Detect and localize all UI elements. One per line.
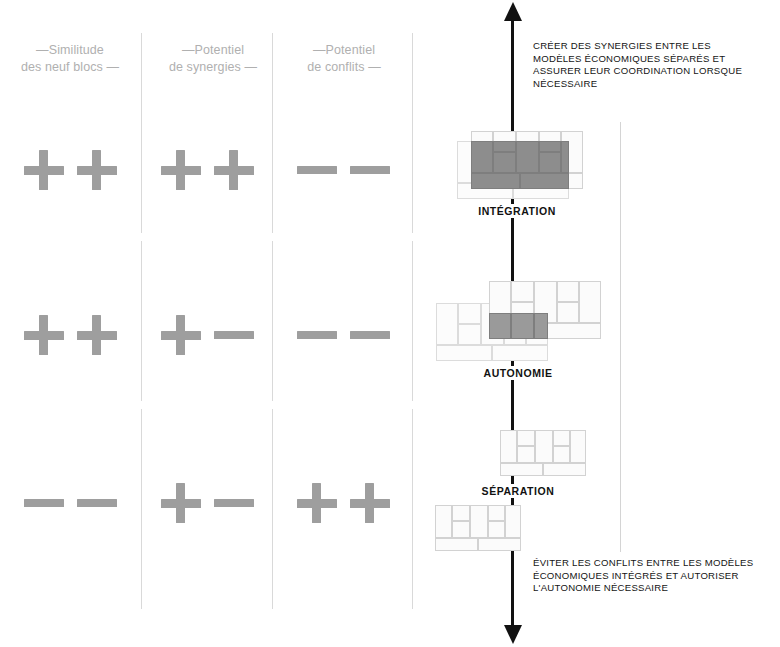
bmc-block-key-partners: [435, 505, 452, 538]
column-divider-3-seg-1: [412, 33, 413, 233]
overlap-cell: [493, 141, 516, 152]
minus-icon: [77, 483, 117, 523]
overlap-cell: [511, 313, 534, 339]
bmc-block-value-prop: [535, 430, 553, 463]
overlap-cell: [516, 141, 539, 173]
annotation-top: CRÉER DES SYNERGIES ENTRE LES MODÈLES ÉC…: [533, 40, 771, 90]
bmc-block-key-activities: [517, 430, 535, 446]
plus-icon: [161, 150, 201, 190]
overlap-cell: [471, 141, 493, 173]
column-header-conflits: —Potentiel de conflits —: [274, 42, 414, 76]
plus-icon: [297, 483, 337, 523]
bmc-block-customers: [505, 505, 521, 538]
minus-icon: [297, 150, 337, 190]
bmc-block-channels: [553, 446, 570, 463]
column-divider-1-seg-2: [141, 241, 142, 401]
rating-autonomie-conflits: [274, 310, 412, 360]
plus-icon: [24, 315, 64, 355]
column-header-similitude: —Similitude des neuf blocs —: [0, 42, 140, 76]
axis-arrowhead-up: [504, 2, 522, 21]
bmc-block-key-activities: [452, 505, 470, 521]
column-divider-2-seg-3: [272, 409, 273, 609]
rating-separation-similitude: [0, 478, 140, 528]
rating-integration-synergies: [143, 145, 271, 195]
plus-icon: [161, 315, 201, 355]
column-divider-2-seg-1: [272, 33, 273, 233]
rating-integration-conflits: [274, 145, 412, 195]
overlap-grid-autonomie: [489, 313, 548, 339]
rating-autonomie-similitude: [0, 310, 140, 360]
plus-icon: [77, 150, 117, 190]
overlap-cell: [489, 313, 511, 339]
column-divider-3-seg-2: [412, 241, 413, 401]
bmc-block-relationships: [557, 281, 579, 302]
plus-icon: [161, 483, 201, 523]
column-divider-1-seg-3: [141, 409, 142, 609]
bmc-block-cost-structure: [500, 463, 543, 476]
annotation-bottom: ÉVITER LES CONFLITS ENTRE LES MODÈLES ÉC…: [533, 557, 773, 595]
bmc-block-key-partners: [500, 430, 517, 463]
bmc-block-channels: [557, 302, 579, 323]
stage-label-integration: INTÉGRATION: [451, 204, 583, 218]
overlap-cell: [539, 141, 561, 152]
overlap-cell: [561, 141, 569, 173]
bmc-block-revenue-streams: [492, 345, 548, 361]
overlap-grid-integration: [471, 141, 569, 189]
stage-label-autonomie: AUTONOMIE: [452, 366, 584, 380]
minus-icon: [350, 150, 390, 190]
column-divider-2-seg-2: [272, 241, 273, 401]
bmc-block-key-activities: [511, 281, 534, 302]
bmc-block-cost-structure: [436, 345, 492, 361]
bmc-block-value-prop: [470, 505, 488, 538]
minus-icon: [214, 315, 254, 355]
bmc-block-key-resources: [517, 446, 535, 463]
bmc-canvas-lower-separation: [435, 505, 521, 551]
rating-integration-similitude: [0, 145, 140, 195]
plus-icon: [214, 150, 254, 190]
plus-icon: [24, 150, 64, 190]
overlap-cell: [534, 313, 548, 339]
axis-arrowhead-down: [504, 625, 522, 644]
bmc-block-customers: [570, 430, 586, 463]
bmc-block-key-partners: [436, 303, 458, 345]
minus-icon: [297, 315, 337, 355]
stage-label-separation: SÉPARATION: [452, 484, 584, 498]
bmc-block-relationships: [553, 430, 570, 446]
overlap-cell: [520, 173, 569, 189]
column-divider-1-seg-1: [141, 33, 142, 233]
bmc-block-revenue-streams: [543, 463, 586, 476]
rating-autonomie-synergies: [143, 310, 271, 360]
overlap-cell: [471, 173, 520, 189]
bmc-block-key-activities: [458, 303, 481, 324]
bmc-block-key-resources: [458, 324, 481, 345]
diagram-canvas: —Similitude des neuf blocs — —Potentiel …: [0, 0, 780, 647]
bmc-canvas-upper-separation: [500, 430, 586, 476]
rating-separation-conflits: [274, 478, 412, 528]
plus-icon: [350, 483, 390, 523]
plus-icon: [77, 315, 117, 355]
minus-icon: [350, 315, 390, 355]
bmc-block-relationships: [488, 505, 505, 521]
right-vertical-rule: [620, 122, 621, 552]
minus-icon: [214, 483, 254, 523]
overlap-cell: [493, 152, 516, 173]
column-header-synergies: —Potentiel de synergies —: [143, 42, 283, 76]
bmc-block-revenue-streams: [478, 538, 521, 551]
minus-icon: [24, 483, 64, 523]
bmc-block-channels: [488, 521, 505, 538]
bmc-block-cost-structure: [435, 538, 478, 551]
bmc-block-revenue-streams: [545, 323, 601, 339]
bmc-block-customers: [579, 281, 601, 323]
bmc-block-key-resources: [452, 521, 470, 538]
column-divider-3-seg-3: [412, 409, 413, 609]
rating-separation-synergies: [143, 478, 271, 528]
overlap-cell: [539, 152, 561, 173]
